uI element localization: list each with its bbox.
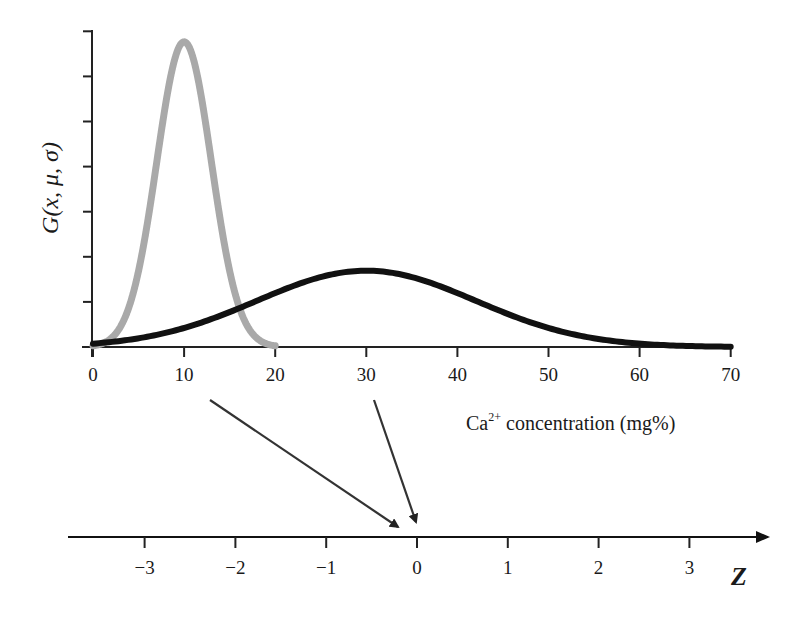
x-axis-title-rest: concentration (mg%) <box>501 412 675 435</box>
z-tick-label: 3 <box>685 557 695 578</box>
x-tick-label: 10 <box>175 364 194 385</box>
z-tick-label: −3 <box>134 557 154 578</box>
x-tick-label: 0 <box>88 364 98 385</box>
z-tick-label: 1 <box>503 557 513 578</box>
x-tick-label: 60 <box>630 364 649 385</box>
x-axis-title-sup: 2+ <box>488 410 501 424</box>
x-tick-label: 20 <box>266 364 285 385</box>
x-axis-title: Ca2+ concentration (mg%) <box>466 410 675 435</box>
z-tick-labels: −3−2−10123 <box>134 557 694 578</box>
z-axis-title: Z <box>730 562 747 591</box>
x-tick-labels: 010203040506070 <box>88 364 740 385</box>
z-tick-label: 0 <box>412 557 422 578</box>
x-tick-label: 30 <box>357 364 376 385</box>
y-axis <box>83 30 92 357</box>
mapping-arrow-x10 <box>210 400 398 527</box>
series-narrow-gaussian <box>93 42 275 346</box>
series-wide-gaussian <box>93 271 731 347</box>
x-tick-label: 70 <box>721 364 740 385</box>
x-axis <box>82 347 733 357</box>
y-axis-title: G(x, μ, σ) <box>37 142 63 234</box>
z-tick-label: −2 <box>225 557 245 578</box>
mapping-arrow-x30 <box>374 400 416 522</box>
x-tick-label: 50 <box>539 364 558 385</box>
x-tick-label: 40 <box>448 364 467 385</box>
z-axis <box>68 537 768 548</box>
x-axis-title-base: Ca <box>466 412 488 434</box>
z-tick-label: 2 <box>594 557 604 578</box>
z-tick-label: −1 <box>316 557 336 578</box>
figure: 010203040506070 G(x, μ, σ) Ca2+ concentr… <box>0 0 791 619</box>
